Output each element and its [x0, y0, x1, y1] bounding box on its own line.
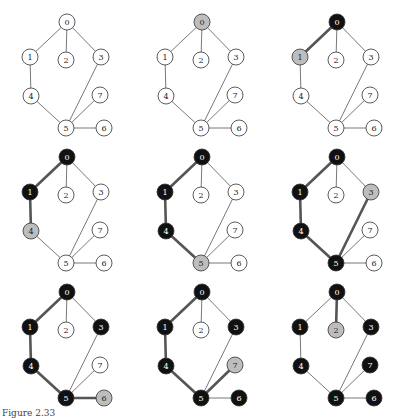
- svg-text:7: 7: [97, 361, 102, 370]
- node-0: 0: [59, 14, 75, 30]
- svg-text:1: 1: [27, 188, 32, 197]
- node-1: 1: [292, 184, 308, 200]
- node-6: 6: [96, 390, 112, 406]
- svg-text:7: 7: [232, 361, 237, 370]
- node-5: 5: [328, 120, 344, 136]
- node-5: 5: [193, 390, 209, 406]
- node-5: 5: [328, 255, 344, 271]
- node-3: 3: [363, 49, 379, 65]
- svg-text:5: 5: [198, 124, 203, 133]
- svg-text:1: 1: [162, 188, 167, 197]
- node-1: 1: [22, 184, 38, 200]
- svg-text:5: 5: [63, 394, 68, 403]
- svg-text:4: 4: [28, 362, 33, 371]
- node-3: 3: [228, 49, 244, 65]
- node-1: 1: [292, 319, 308, 335]
- node-0: 0: [194, 284, 210, 300]
- node-3: 3: [93, 184, 109, 200]
- svg-text:6: 6: [236, 259, 241, 268]
- node-3: 3: [363, 319, 379, 335]
- svg-text:6: 6: [101, 394, 106, 403]
- svg-text:3: 3: [98, 323, 103, 332]
- svg-text:5: 5: [198, 394, 203, 403]
- svg-text:7: 7: [232, 226, 237, 235]
- node-1: 1: [157, 319, 173, 335]
- svg-text:6: 6: [101, 259, 106, 268]
- node-5: 5: [58, 390, 74, 406]
- svg-text:2: 2: [63, 56, 68, 65]
- svg-text:2: 2: [63, 191, 68, 200]
- svg-text:1: 1: [297, 188, 302, 197]
- svg-text:5: 5: [333, 259, 338, 268]
- svg-text:4: 4: [163, 92, 168, 101]
- node-4: 4: [158, 88, 174, 104]
- node-0: 0: [329, 14, 345, 30]
- svg-text:1: 1: [162, 323, 167, 332]
- svg-text:5: 5: [198, 259, 203, 268]
- svg-text:0: 0: [199, 18, 204, 27]
- svg-text:3: 3: [368, 53, 373, 62]
- svg-text:4: 4: [298, 92, 303, 101]
- node-2: 2: [58, 187, 74, 203]
- graph-panel-8: 01234567: [135, 270, 270, 405]
- svg-text:3: 3: [233, 53, 238, 62]
- svg-text:0: 0: [334, 18, 339, 27]
- node-4: 4: [23, 223, 39, 239]
- node-0: 0: [59, 149, 75, 165]
- node-7: 7: [362, 87, 378, 103]
- svg-text:2: 2: [198, 326, 203, 335]
- svg-text:4: 4: [163, 362, 168, 371]
- node-2: 2: [193, 52, 209, 68]
- svg-text:7: 7: [232, 91, 237, 100]
- graph-panel-6: 01234567: [270, 135, 400, 270]
- svg-text:7: 7: [367, 226, 372, 235]
- svg-text:4: 4: [298, 362, 303, 371]
- node-7: 7: [92, 87, 108, 103]
- node-4: 4: [23, 358, 39, 374]
- node-4: 4: [23, 88, 39, 104]
- svg-text:4: 4: [28, 92, 33, 101]
- node-3: 3: [93, 49, 109, 65]
- node-2: 2: [328, 187, 344, 203]
- svg-text:0: 0: [64, 153, 69, 162]
- node-0: 0: [329, 149, 345, 165]
- svg-text:4: 4: [28, 227, 33, 236]
- graph-panel-9: 01234567: [270, 270, 400, 405]
- node-3: 3: [228, 184, 244, 200]
- node-7: 7: [92, 222, 108, 238]
- svg-text:6: 6: [371, 259, 376, 268]
- node-5: 5: [58, 120, 74, 136]
- graph-panel-4: 01234567: [0, 135, 135, 270]
- svg-text:1: 1: [297, 323, 302, 332]
- node-2: 2: [193, 322, 209, 338]
- svg-text:7: 7: [367, 361, 372, 370]
- node-6: 6: [231, 120, 247, 136]
- svg-text:6: 6: [371, 394, 376, 403]
- node-2: 2: [58, 52, 74, 68]
- svg-text:6: 6: [236, 394, 241, 403]
- node-2: 2: [193, 187, 209, 203]
- node-4: 4: [293, 223, 309, 239]
- node-0: 0: [194, 14, 210, 30]
- node-3: 3: [93, 319, 109, 335]
- node-4: 4: [293, 358, 309, 374]
- node-6: 6: [96, 120, 112, 136]
- node-0: 0: [194, 149, 210, 165]
- node-7: 7: [362, 357, 378, 373]
- svg-text:3: 3: [98, 53, 103, 62]
- node-0: 0: [59, 284, 75, 300]
- svg-text:5: 5: [333, 394, 338, 403]
- svg-text:2: 2: [198, 191, 203, 200]
- svg-text:2: 2: [333, 326, 338, 335]
- graph-panel-2: 01234567: [135, 0, 270, 135]
- node-5: 5: [193, 120, 209, 136]
- node-6: 6: [366, 255, 382, 271]
- svg-text:6: 6: [236, 124, 241, 133]
- svg-text:1: 1: [27, 53, 32, 62]
- svg-text:4: 4: [298, 227, 303, 236]
- svg-text:2: 2: [63, 326, 68, 335]
- graph-panel-1: 01234567: [0, 0, 135, 135]
- svg-text:6: 6: [371, 124, 376, 133]
- node-5: 5: [58, 255, 74, 271]
